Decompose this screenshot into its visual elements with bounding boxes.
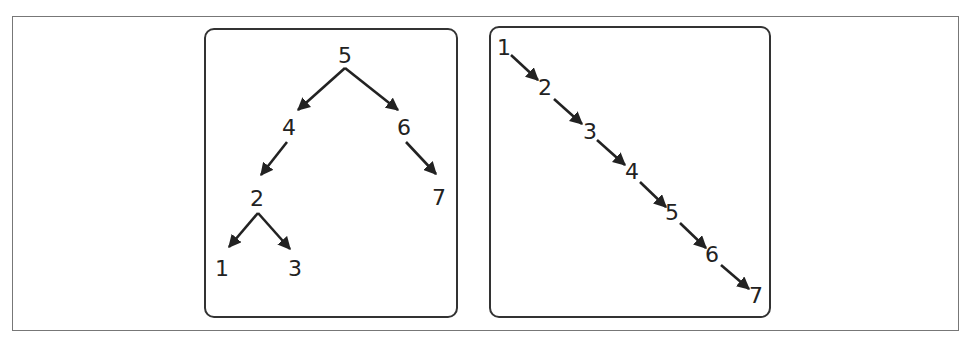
arrow-icon-4-to-5	[640, 182, 666, 207]
tree-node-1: 1	[215, 256, 229, 281]
tree-node-7: 7	[749, 283, 763, 308]
tree-node-4: 4	[625, 159, 639, 184]
tree-node-6: 6	[705, 242, 719, 267]
tree-node-1: 1	[497, 35, 511, 60]
tree-node-3: 3	[288, 256, 302, 281]
arrow-icon-2-to-1	[229, 213, 258, 247]
balanced-tree: 5462713	[215, 43, 446, 281]
tree-diagrams: 5462713 1234567	[0, 0, 970, 344]
arrow-icon-5-to-4	[298, 68, 345, 110]
arrow-icon-5-to-6	[345, 68, 398, 110]
degenerate-tree: 1234567	[497, 35, 763, 308]
arrow-icon-2-to-3	[554, 99, 582, 124]
tree-node-6: 6	[397, 115, 411, 140]
tree-node-2: 2	[250, 186, 264, 211]
arrow-icon-5-to-6	[680, 223, 706, 248]
tree-node-3: 3	[583, 119, 597, 144]
tree-node-5: 5	[665, 200, 679, 225]
tree-node-7: 7	[432, 185, 446, 210]
arrow-icon-4-to-2	[261, 142, 287, 175]
arrow-icon-6-to-7	[406, 142, 436, 174]
tree-node-5: 5	[338, 43, 352, 68]
arrow-icon-6-to-7	[721, 265, 749, 289]
arrow-icon-2-to-3	[258, 213, 290, 249]
tree-node-2: 2	[538, 75, 552, 100]
arrow-icon-3-to-4	[597, 140, 625, 165]
tree-node-4: 4	[282, 115, 296, 140]
arrow-icon-1-to-2	[511, 55, 538, 80]
